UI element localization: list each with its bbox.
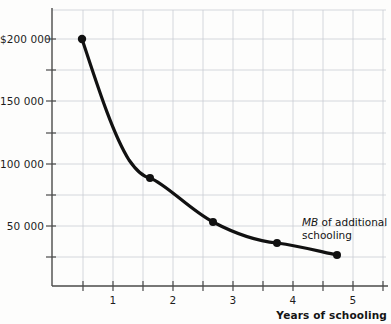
data-point: [209, 218, 217, 226]
data-point: [146, 174, 154, 182]
chart-plot-area: [0, 0, 391, 324]
vertical-gridlines: [83, 10, 383, 286]
y-tick-label-100000: 100 000: [0, 158, 44, 170]
x-tick-label-3: 3: [230, 294, 237, 306]
y-tick-label-200000: $200 000: [0, 33, 44, 45]
mb-curve-annotation: MB of additional schooling: [302, 216, 387, 241]
x-tick-label-4: 4: [290, 294, 297, 306]
data-point: [333, 251, 341, 259]
y-axis-ticks: [46, 39, 56, 257]
y-tick-label-150000: 150 000: [0, 95, 44, 107]
y-tick-label-50000: 50 000: [0, 220, 44, 232]
chart-container: $200 000 150 000 100 000 50 000 1 2 3 4 …: [0, 0, 391, 324]
x-tick-label-2: 2: [170, 294, 177, 306]
x-tick-label-1: 1: [110, 294, 117, 306]
mb-annotation-rest: of additional: [318, 216, 387, 228]
mb-symbol: MB: [302, 216, 318, 228]
x-axis-title: Years of schooling: [276, 309, 387, 321]
mb-annotation-line2: schooling: [302, 229, 352, 241]
data-point: [78, 35, 86, 43]
data-point: [273, 239, 281, 247]
x-tick-label-5: 5: [350, 294, 357, 306]
